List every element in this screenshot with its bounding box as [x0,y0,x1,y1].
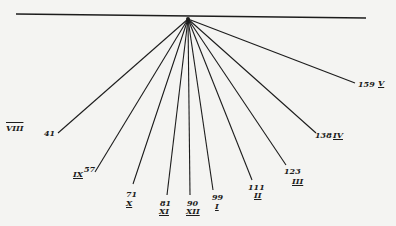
ray-angle-value: 57 [84,165,95,173]
hour-ray [188,19,213,190]
sundial-hour-lines-diagram [0,0,396,226]
hour-numeral-label: II [254,191,261,199]
ray-angle-value: 159 [358,80,375,88]
hour-numeral-label: XI [159,207,169,215]
apex-point [186,17,190,21]
hour-ray [188,19,355,83]
baseline [16,14,366,18]
ray-angle-value: 123 [284,167,301,175]
hour-rays [58,19,355,195]
ray-angle-value: 71 [126,190,137,198]
hour-ray [188,19,316,133]
ray-angle-value: 99 [212,193,223,201]
hour-numeral-label: X [126,199,132,207]
hour-numeral-label: I [215,202,219,210]
hour-numeral-label: IX [73,170,83,178]
hour-ray [188,19,190,195]
hour-numeral-label: V [378,79,384,87]
hour-numeral-label: XII [186,207,200,215]
hour-numeral-label: III [292,177,303,185]
hour-numeral-label: IV [333,131,343,139]
hour-ray [95,19,188,172]
hour-ray [167,19,188,195]
ray-angle-value: 41 [44,129,55,137]
hour-numeral-label: VIII [6,124,23,132]
ray-angle-value: 138 [315,131,332,139]
